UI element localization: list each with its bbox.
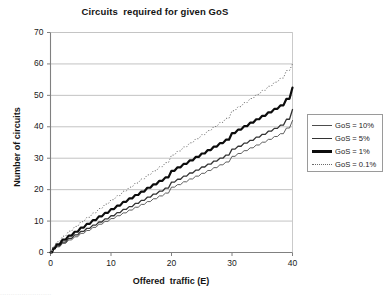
legend-line-swatch — [311, 147, 333, 157]
y-tick-label: 60 — [18, 58, 44, 68]
legend-item: GoS = 5% — [311, 132, 370, 145]
y-tick-label: 20 — [18, 184, 44, 194]
y-tick-label: 10 — [18, 216, 44, 226]
legend-line-swatch — [311, 160, 333, 170]
y-tick-label: 70 — [18, 27, 44, 37]
legend-line-swatch — [311, 134, 333, 144]
y-tick-label: 30 — [18, 153, 44, 163]
x-tick-label: 20 — [160, 258, 184, 268]
legend-item: GoS = 1% — [311, 145, 370, 158]
y-tick-label: 50 — [18, 90, 44, 100]
y-tick-label: 40 — [18, 121, 44, 131]
series-line — [51, 121, 293, 253]
legend-item: GoS = 0.1% — [311, 158, 376, 171]
legend-item-label: GoS = 10% — [335, 121, 374, 130]
page-edge-artifact: ........................ — [0, 289, 390, 300]
legend-item-label: GoS = 5% — [335, 134, 370, 143]
legend-item-label: GoS = 1% — [335, 147, 370, 156]
legend-item: GoS = 10% — [311, 119, 374, 132]
legend-item-label: GoS = 0.1% — [335, 160, 376, 169]
x-tick-label: 10 — [99, 258, 123, 268]
x-tick-label: 40 — [281, 258, 305, 268]
legend-line-swatch — [311, 121, 333, 131]
x-tick-label: 30 — [220, 258, 244, 268]
y-tick-label: 0 — [18, 247, 44, 257]
chart-container: Circuits required for given GoS Number o… — [0, 0, 390, 300]
x-tick-label: 0 — [39, 258, 63, 268]
chart-legend: GoS = 10%GoS = 5%GoS = 1%GoS = 0.1% — [307, 114, 383, 172]
